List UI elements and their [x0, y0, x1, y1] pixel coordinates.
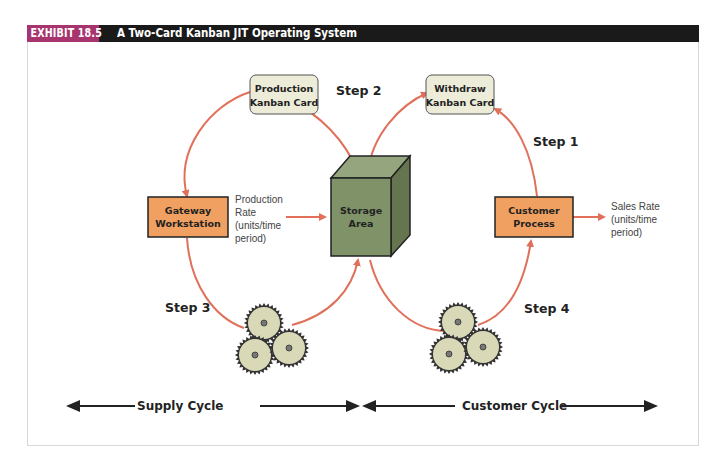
supply-cycle-arrow: Supply Cycle [66, 399, 360, 413]
step-4-label: Step 4 [524, 301, 570, 316]
gear-hub [480, 344, 486, 350]
arc-customer-to-withdraw-card [495, 109, 537, 196]
production-card-line2: Kanban Card [250, 97, 319, 108]
withdraw-card-line2: Kanban Card [426, 97, 495, 108]
gear-hub [455, 319, 461, 325]
gear-hub [446, 351, 452, 357]
withdraw-kanban-card: Withdraw Kanban Card [426, 75, 495, 114]
customer-process-box: Customer Process [495, 197, 573, 237]
storage-line2: Area [349, 218, 374, 229]
svg-text:Rate: Rate [235, 207, 257, 218]
production-rate-note: Production Rate (units/time period) [235, 194, 283, 244]
supply-cycle-label: Supply Cycle [137, 399, 223, 413]
gears-icon-supply [235, 303, 309, 375]
svg-text:(units/time: (units/time [235, 220, 282, 231]
storage-line1: Storage [340, 205, 382, 216]
gear-hub [286, 345, 292, 351]
step-2-label: Step 2 [336, 83, 381, 98]
svg-text:Sales Rate: Sales Rate [611, 201, 660, 212]
svg-text:period): period) [611, 227, 642, 238]
arc-storage-to-gears [370, 260, 445, 331]
customer-cycle-arrow: Customer Cycle [362, 399, 658, 413]
gateway-line1: Gateway [165, 205, 212, 216]
arc-production-card-to-gateway [185, 92, 250, 196]
svg-text:(units/time: (units/time [611, 214, 658, 225]
step-3-label: Step 3 [165, 300, 210, 315]
gateway-line2: Workstation [155, 218, 221, 229]
customer-line1: Customer [508, 205, 560, 216]
gateway-workstation-box: Gateway Workstation [148, 197, 228, 237]
storage-area-cube: Storage Area [331, 156, 410, 256]
production-card-line1: Production [255, 83, 314, 94]
svg-text:Production: Production [235, 194, 283, 205]
customer-line2: Process [513, 218, 555, 229]
arc-gears-to-storage [292, 260, 358, 325]
svg-text:period): period) [235, 233, 266, 244]
gear-hub [252, 352, 258, 358]
step-1-label: Step 1 [533, 134, 578, 149]
kanban-diagram: Production Kanban Card Withdraw Kanban C… [0, 0, 721, 473]
production-kanban-card: Production Kanban Card [250, 75, 319, 114]
customer-cycle-label: Customer Cycle [462, 399, 567, 413]
sales-rate-note: Sales Rate (units/time period) [611, 201, 660, 238]
withdraw-card-line1: Withdraw [434, 83, 486, 94]
gears-icon-customer [429, 302, 503, 374]
gear-hub [261, 320, 267, 326]
